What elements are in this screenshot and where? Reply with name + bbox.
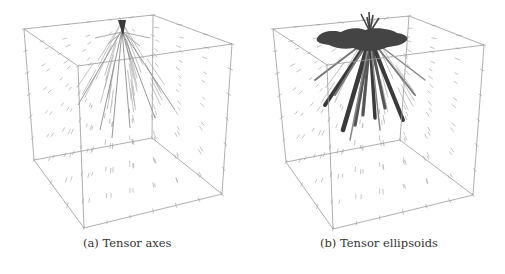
caption-a: (a) Tensor axes [83, 236, 172, 250]
caption-b: (b) Tensor ellipsoids [320, 236, 438, 250]
panel-a-tensor-axes [0, 0, 252, 232]
tensor-axes-figure [0, 0, 252, 232]
ellipsoid-spokes [315, 38, 425, 140]
panel-b-tensor-ellipsoids [255, 0, 505, 232]
flattened-ellipsoid-cluster [317, 28, 408, 51]
tensor-ellipsoids-figure [255, 0, 505, 232]
radial-axes [78, 30, 175, 138]
